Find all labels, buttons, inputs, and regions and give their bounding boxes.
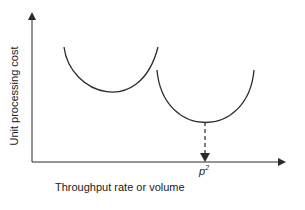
diagram-canvas bbox=[0, 0, 305, 210]
y-axis-label: Unit processing cost bbox=[8, 46, 20, 145]
x-axis-label: Throughput rate or volume bbox=[55, 181, 185, 193]
p2-marker: p2 bbox=[199, 164, 209, 177]
cost-curve-1 bbox=[64, 47, 158, 92]
cost-curve-2 bbox=[157, 70, 254, 123]
marker-sup: 2 bbox=[205, 164, 209, 171]
minimum-arrow-icon bbox=[200, 153, 210, 162]
